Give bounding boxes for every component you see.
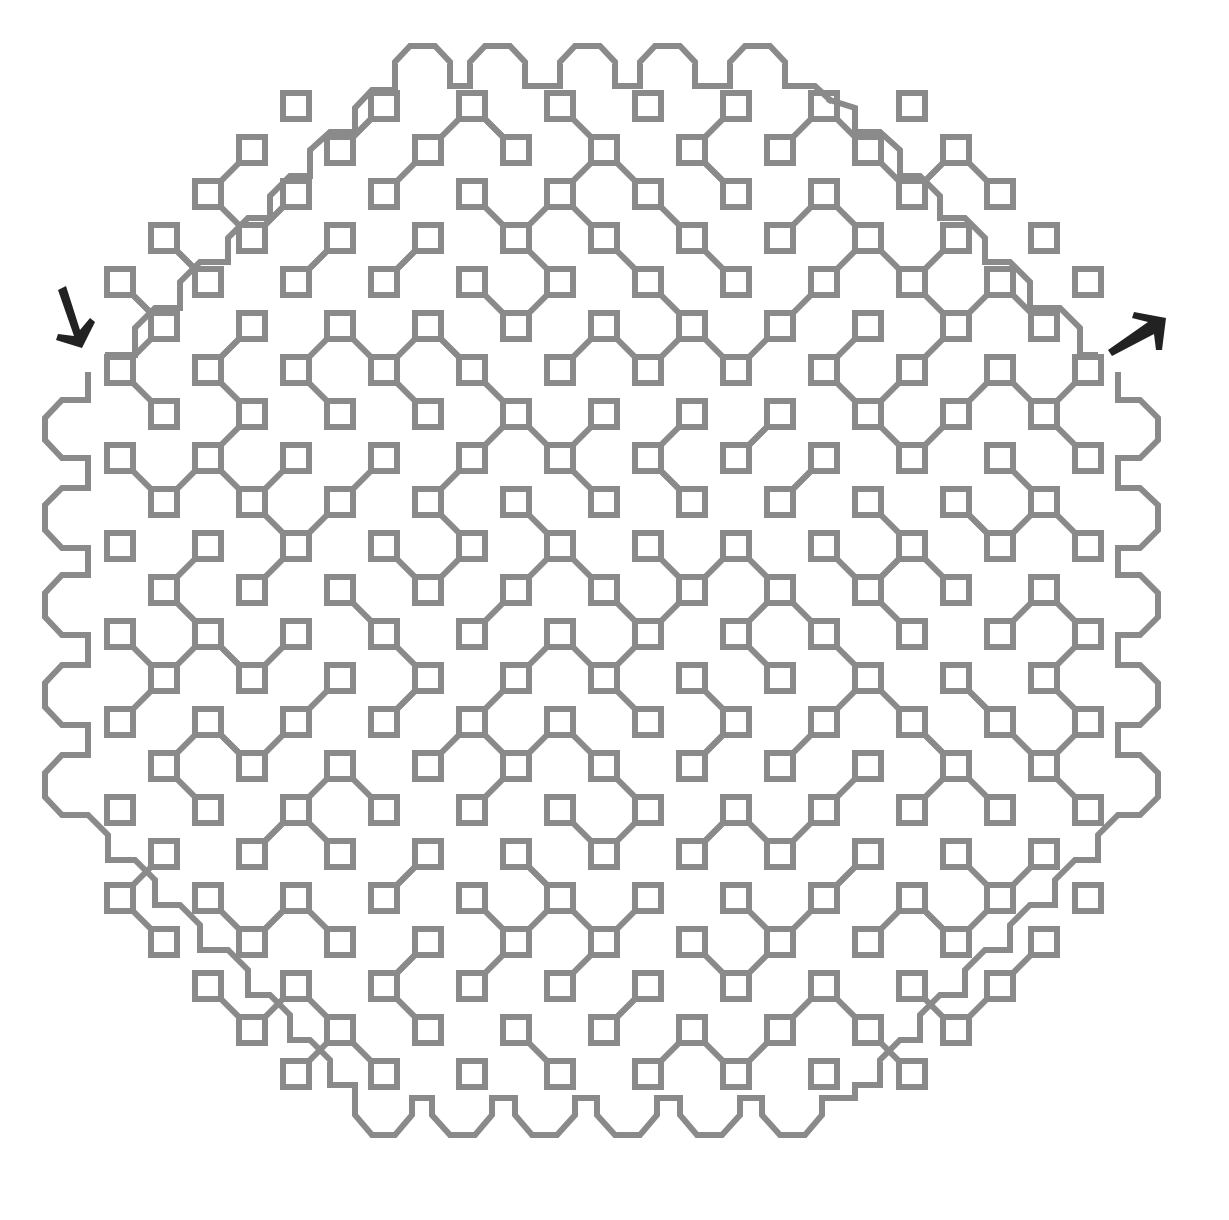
maze-link-wall xyxy=(881,603,899,621)
maze-cell-wall xyxy=(239,753,265,779)
maze-cell-wall xyxy=(723,797,749,823)
maze-cell-wall xyxy=(591,313,617,339)
maze-cell-wall xyxy=(943,577,969,603)
maze-cell-wall xyxy=(283,357,309,383)
maze-cell-wall xyxy=(679,841,705,867)
maze-cell-wall xyxy=(371,797,397,823)
maze-cell-wall xyxy=(591,929,617,955)
maze-link-wall xyxy=(661,207,679,225)
maze-cell-wall xyxy=(767,577,793,603)
maze-cell-wall xyxy=(547,885,573,911)
maze-link-wall xyxy=(485,427,503,445)
maze-cell-wall xyxy=(547,357,573,383)
maze-cell-wall xyxy=(371,181,397,207)
maze-puzzle xyxy=(0,0,1229,1220)
maze-cell-wall xyxy=(855,929,881,955)
maze-cell-wall xyxy=(855,313,881,339)
maze-cell-wall xyxy=(327,753,353,779)
maze-cell-wall xyxy=(635,181,661,207)
maze-cell-wall xyxy=(987,621,1013,647)
maze-link-wall xyxy=(485,603,503,621)
maze-cell-wall xyxy=(635,885,661,911)
maze-cell-wall xyxy=(767,137,793,163)
maze-link-wall xyxy=(265,911,283,929)
maze-link-wall xyxy=(353,1043,371,1061)
maze-cell-wall xyxy=(195,973,221,999)
maze-cell-wall xyxy=(591,1017,617,1043)
maze-cell-wall xyxy=(679,929,705,955)
maze-cell-wall xyxy=(239,665,265,691)
maze-link-wall xyxy=(177,251,195,269)
maze-link-wall xyxy=(529,559,547,577)
maze-cell-wall xyxy=(767,1017,793,1043)
maze-cell-wall xyxy=(811,1061,837,1087)
maze-cell-wall xyxy=(239,401,265,427)
maze-cell-wall xyxy=(767,665,793,691)
maze-cell-wall xyxy=(811,181,837,207)
maze-link-wall xyxy=(265,823,283,841)
maze-cell-wall xyxy=(899,357,925,383)
maze-cell-wall xyxy=(503,929,529,955)
maze-link-wall xyxy=(661,603,679,621)
maze-cell-wall xyxy=(635,797,661,823)
maze-link-wall xyxy=(925,779,943,797)
maze-cell-wall xyxy=(503,137,529,163)
maze-link-wall xyxy=(793,207,811,225)
maze-link-wall xyxy=(397,867,415,885)
maze-link-wall xyxy=(749,823,767,841)
arrow-down-right-icon xyxy=(56,286,95,348)
maze-cell-wall xyxy=(811,797,837,823)
maze-link-wall xyxy=(309,339,327,357)
maze-cell-wall xyxy=(151,313,177,339)
maze-cell-wall xyxy=(107,621,133,647)
maze-cell-wall xyxy=(415,225,441,251)
maze-cell-wall xyxy=(723,973,749,999)
maze-cell-wall xyxy=(547,621,573,647)
maze-cell-wall xyxy=(679,665,705,691)
maze-cell-wall xyxy=(415,665,441,691)
maze-link-wall xyxy=(265,515,283,533)
maze-cell-wall xyxy=(635,621,661,647)
maze-cell-wall xyxy=(195,533,221,559)
maze-link-wall xyxy=(793,295,811,313)
maze-cell-wall xyxy=(371,1061,397,1087)
maze-link-wall xyxy=(1013,603,1031,621)
maze-cell-wall xyxy=(415,1017,441,1043)
maze-cell-wall xyxy=(943,929,969,955)
maze-link-wall xyxy=(837,691,855,709)
maze-cell-wall xyxy=(679,313,705,339)
maze-link-wall xyxy=(881,559,899,577)
maze-cell-wall xyxy=(547,533,573,559)
maze-cell-wall xyxy=(855,841,881,867)
maze-link-wall xyxy=(397,691,415,709)
maze-cell-wall xyxy=(459,181,485,207)
maze-cell-wall xyxy=(767,401,793,427)
maze-link-wall xyxy=(617,647,635,665)
maze-cell-wall xyxy=(899,533,925,559)
maze-cell-wall xyxy=(987,269,1013,295)
maze-link-wall xyxy=(969,515,987,533)
maze-link-wall xyxy=(969,779,987,797)
maze-cell-wall xyxy=(811,885,837,911)
maze-cell-wall xyxy=(107,357,133,383)
maze-cell-wall xyxy=(1031,753,1057,779)
maze-cell-wall xyxy=(195,445,221,471)
maze-link-wall xyxy=(529,427,547,445)
maze-link-wall xyxy=(485,735,503,753)
maze-cell-wall xyxy=(723,181,749,207)
maze-cell-wall xyxy=(855,577,881,603)
maze-cell-wall xyxy=(371,93,397,119)
maze-cell-wall xyxy=(459,709,485,735)
maze-cell-wall xyxy=(855,137,881,163)
maze-cell-wall xyxy=(327,137,353,163)
maze-cell-wall xyxy=(327,929,353,955)
maze-link-wall xyxy=(749,427,767,445)
maze-link-wall xyxy=(397,999,415,1017)
maze-cell-wall xyxy=(591,665,617,691)
maze-link-wall xyxy=(309,911,327,929)
maze-cell-wall xyxy=(1031,313,1057,339)
maze-cell-wall xyxy=(415,489,441,515)
maze-cell-wall xyxy=(943,1017,969,1043)
maze-cell-wall xyxy=(943,225,969,251)
maze-cell-wall xyxy=(591,577,617,603)
